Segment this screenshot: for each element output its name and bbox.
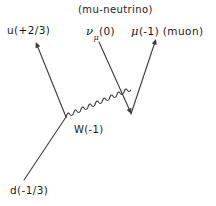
mu-neutrino-label: νμ(0) [86, 24, 115, 40]
mu-neutrino-annotation: (mu-neutrino) [78, 4, 153, 15]
mu-neutrino-line [99, 42, 130, 111]
muon-symbol: μ [131, 24, 139, 38]
feynman-diagram-canvas: (mu-neutrino) u(+2/3) νμ(0) μ(-1) (muon)… [0, 0, 216, 206]
down-quark-label: d(-1/3) [10, 184, 48, 196]
up-quark-line [37, 45, 66, 117]
neutrino-subscript: μ [93, 33, 99, 42]
muon-line [131, 42, 155, 114]
w-boson-label: W(-1) [74, 124, 104, 135]
down-quark-line [24, 117, 66, 180]
muon-charge-and-name: (-1) (muon) [139, 25, 204, 37]
up-quark-label: u(+2/3) [7, 24, 50, 36]
w-boson-wavy-line [66, 89, 131, 117]
muon-label: μ(-1) (muon) [131, 24, 203, 38]
neutrino-charge: (0) [99, 25, 115, 37]
